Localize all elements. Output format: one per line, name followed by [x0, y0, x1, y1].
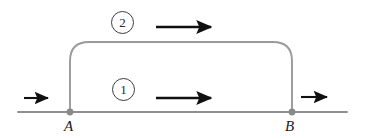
- flow-branch-diagram: 2 1 A B: [0, 0, 365, 139]
- branch-2-bypass-path: [70, 42, 292, 112]
- branch-1-badge-number: 1: [120, 83, 127, 96]
- node-b-dot: [289, 109, 296, 116]
- diagram-canvas: [0, 0, 365, 139]
- branch-1-badge: 1: [112, 78, 135, 101]
- node-a-dot: [67, 109, 74, 116]
- branch-2-badge-number: 2: [119, 16, 126, 29]
- node-a-label: A: [64, 119, 73, 134]
- branch-2-badge: 2: [111, 11, 134, 34]
- node-b-label: B: [285, 119, 294, 134]
